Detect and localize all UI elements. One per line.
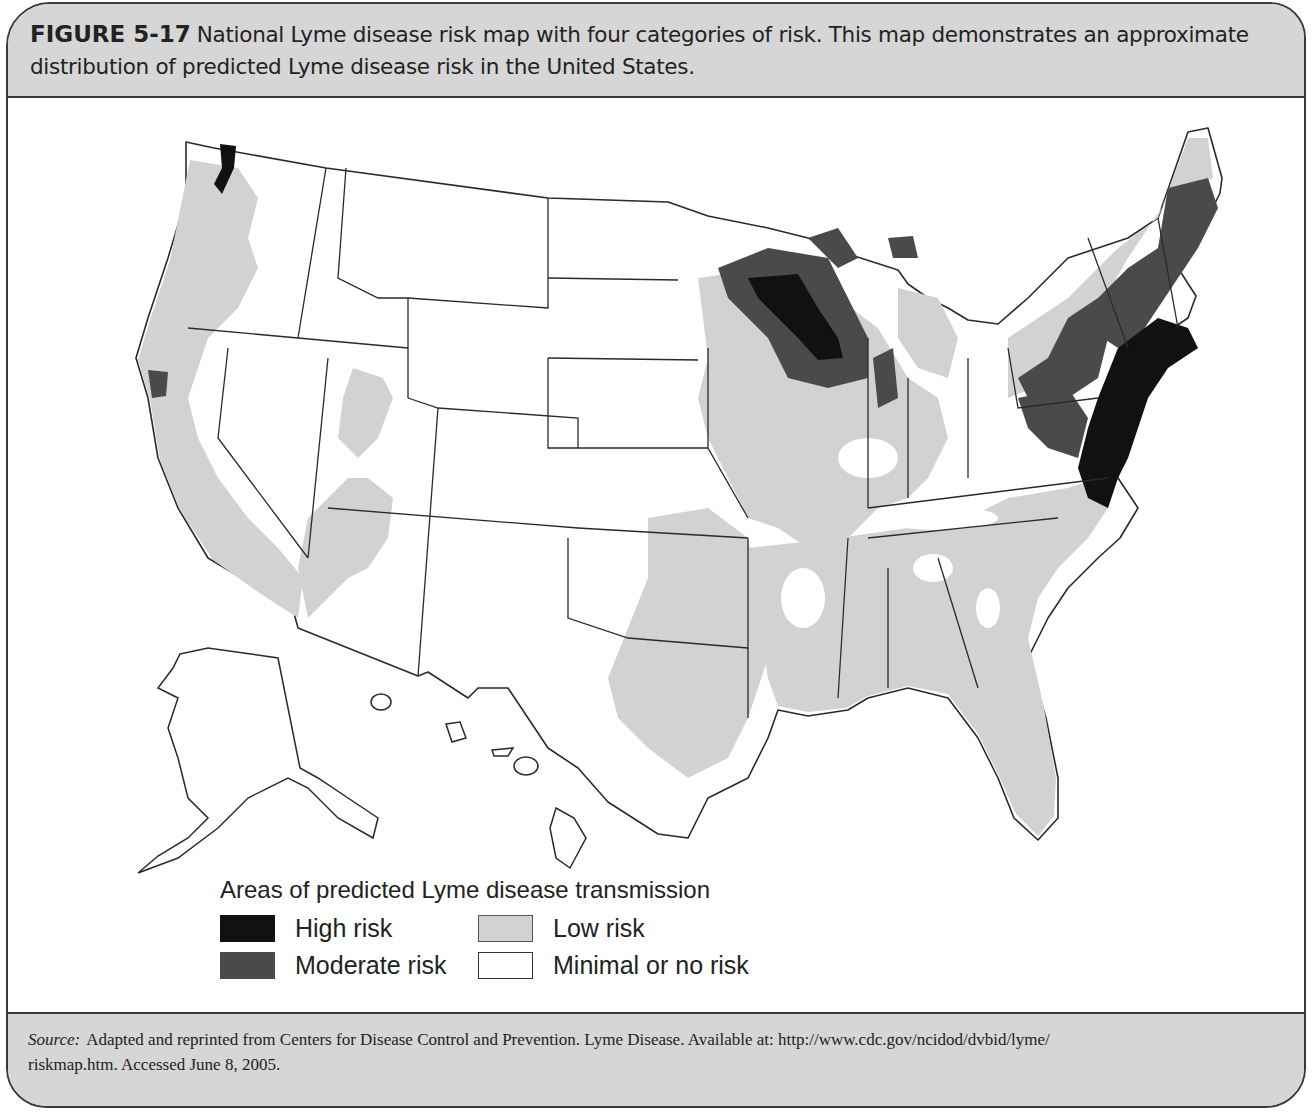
figure-label: FIGURE 5-17 [30,21,191,47]
legend-label: Minimal or no risk [553,951,749,980]
map-legend: Areas of predicted Lyme disease transmis… [220,876,778,980]
source-note: Source:Adapted and reprinted from Center… [8,1012,1304,1106]
legend-item-low-risk: Low risk [478,914,778,943]
legend-label: Moderate risk [295,951,446,980]
caption-text-line2: distribution of predicted Lyme disease r… [30,51,1304,83]
upper-michigan-moderate-2 [888,236,918,258]
figure-caption: FIGURE 5-17National Lyme disease risk ma… [8,4,1304,98]
minimal-risk-swatch [478,952,533,979]
moderate-risk-swatch [220,952,275,979]
legend-item-high-risk: High risk [220,914,478,943]
legend-item-moderate-risk: Moderate risk [220,951,478,980]
source-text-line2: riskmap.htm. Accessed June 8, 2005. [28,1052,1304,1077]
high-risk-swatch [220,915,275,942]
legend-label: High risk [295,914,392,943]
us-lyme-risk-map [8,98,1306,878]
alaska-inset [138,648,378,873]
source-text-line1: Adapted and reprinted from Centers for D… [86,1030,1050,1049]
map-area: Areas of predicted Lyme disease transmis… [8,98,1304,1016]
legend-label: Low risk [553,914,645,943]
figure-frame: FIGURE 5-17National Lyme disease risk ma… [6,2,1306,1108]
legend-item-minimal-risk: Minimal or no risk [478,951,778,980]
legend-title: Areas of predicted Lyme disease transmis… [220,876,778,904]
caption-text-line1: National Lyme disease risk map with four… [197,22,1249,47]
low-risk-swatch [478,915,533,942]
source-label: Source: [28,1030,80,1049]
